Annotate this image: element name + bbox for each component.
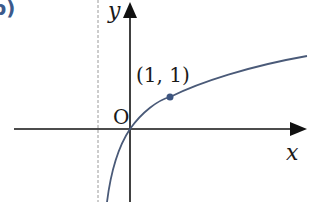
point-label: (1, 1) <box>136 63 190 87</box>
graph-canvas: y x O (1, 1) <box>0 0 315 202</box>
part-label: b) <box>0 0 15 20</box>
x-axis-arrow-icon <box>290 122 307 136</box>
origin-label: O <box>113 105 129 129</box>
y-axis-arrow-icon <box>123 2 137 18</box>
point-marker <box>167 94 174 101</box>
y-axis-label: y <box>107 0 121 23</box>
x-axis-label: x <box>286 140 299 165</box>
graph-figure: b) y x O (1, 1) <box>0 0 315 202</box>
